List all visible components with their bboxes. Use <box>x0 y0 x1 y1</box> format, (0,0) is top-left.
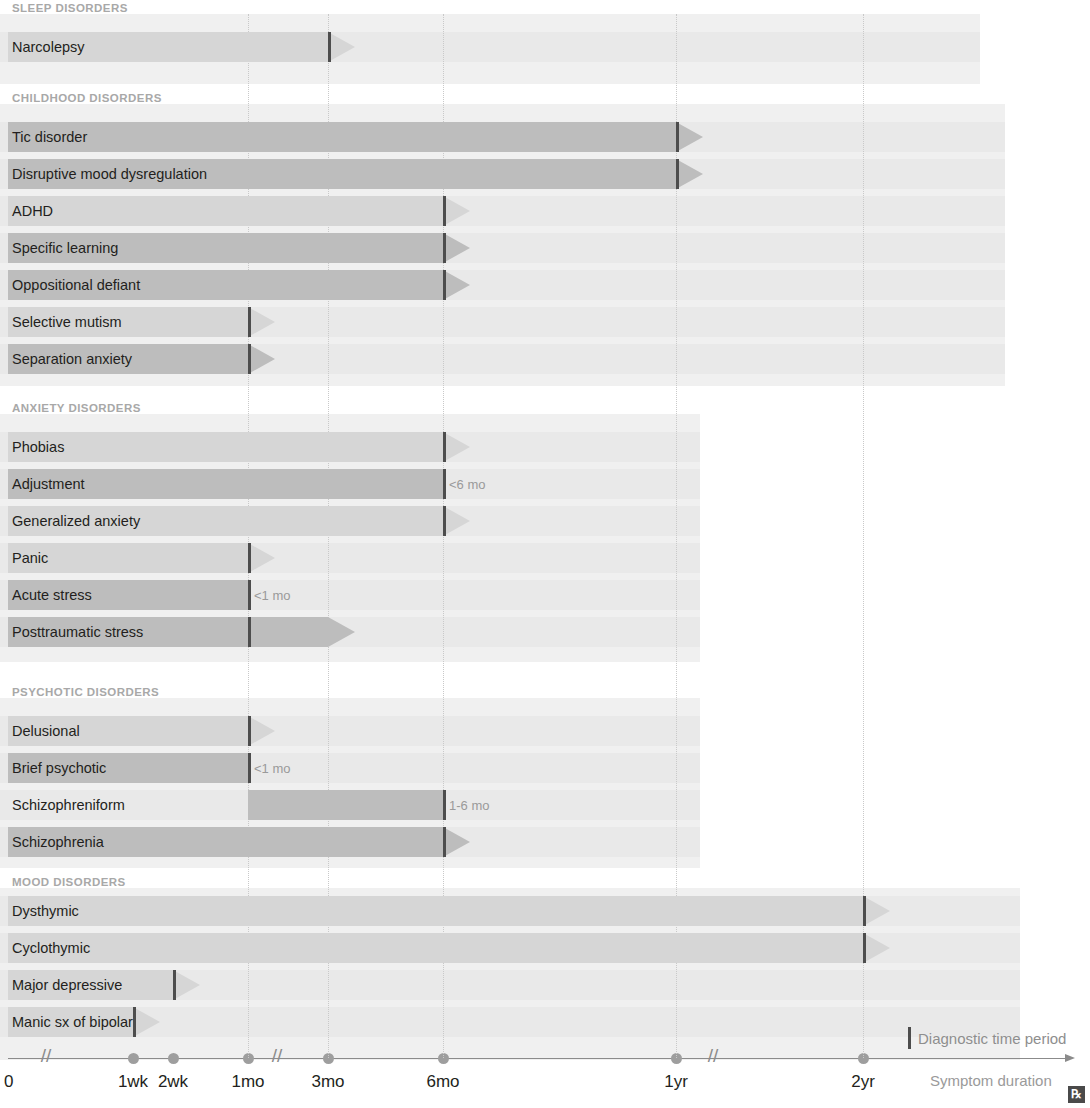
row-label: Dysthymic <box>12 896 79 926</box>
row-label: Brief psychotic <box>12 753 106 783</box>
section-heading-childhood-disorders: CHILDHOOD DISORDERS <box>0 92 162 104</box>
axis-tick-label: 2yr <box>851 1072 875 1092</box>
diagnostic-marker <box>248 716 251 746</box>
continuation-arrow <box>443 432 470 462</box>
continuation-arrow <box>173 970 200 1000</box>
axis-break-icon: // <box>708 1046 719 1065</box>
diagnostic-marker <box>443 270 446 300</box>
row-label: Tic disorder <box>12 122 87 152</box>
row-label: Schizophrenia <box>12 827 104 857</box>
row-label: Panic <box>12 543 48 573</box>
duration-bar <box>248 790 443 820</box>
bar-note: <6 mo <box>449 469 486 499</box>
continuation-arrow <box>443 506 470 536</box>
continuation-arrow <box>863 896 890 926</box>
row-label: Selective mutism <box>12 307 122 337</box>
continuation-arrow <box>248 716 275 746</box>
legend-label: Diagnostic time period <box>918 1030 1066 1047</box>
legend: Diagnostic time period <box>908 1027 1066 1049</box>
duration-bar <box>8 933 863 963</box>
diagnostic-marker <box>443 233 446 263</box>
continuation-arrow <box>676 122 703 152</box>
continuation-arrow <box>863 933 890 963</box>
axis-tick-label: 1mo <box>231 1072 264 1092</box>
diagnostic-marker <box>248 543 251 573</box>
row-label: Generalized anxiety <box>12 506 140 536</box>
diagnostic-marker <box>443 196 446 226</box>
row-label: ADHD <box>12 196 53 226</box>
row-label: Oppositional defiant <box>12 270 140 300</box>
axis-tick-label: 6mo <box>426 1072 459 1092</box>
continuation-arrow <box>248 543 275 573</box>
continuation-arrow <box>328 32 355 62</box>
diagnostic-marker <box>248 307 251 337</box>
row-label: Delusional <box>12 716 80 746</box>
time-axis: //////1wk2wk1mo3mo6mo1yr2yr0 <box>0 1058 1090 1108</box>
diagnostic-marker <box>248 580 251 610</box>
row-label: Acute stress <box>12 580 92 610</box>
section-heading-sleep-disorders: SLEEP DISORDERS <box>0 2 128 14</box>
rx-icon: ℞ <box>1068 1086 1085 1103</box>
continuation-arrow <box>443 827 470 857</box>
continuation-arrow <box>328 617 355 647</box>
diagnostic-marker <box>173 970 176 1000</box>
diagnostic-marker <box>248 344 251 374</box>
axis-break-icon: // <box>41 1046 52 1065</box>
section-heading-anxiety-disorders: ANXIETY DISORDERS <box>0 402 141 414</box>
axis-tick-label: 2wk <box>158 1072 188 1092</box>
continuation-arrow <box>443 270 470 300</box>
axis-tick-dot <box>128 1053 139 1064</box>
diagnostic-marker <box>863 896 866 926</box>
axis-arrowhead-icon <box>1065 1054 1075 1062</box>
row-label: Separation anxiety <box>12 344 132 374</box>
duration-bar <box>8 896 863 926</box>
section-heading-psychotic-disorders: PSYCHOTIC DISORDERS <box>0 686 159 698</box>
bar-note: <1 mo <box>254 580 291 610</box>
diagnostic-marker <box>676 122 679 152</box>
diagnostic-marker <box>248 617 251 647</box>
row-label: Phobias <box>12 432 64 462</box>
continuation-arrow <box>248 307 275 337</box>
duration-bar <box>8 432 443 462</box>
diagnostic-marker <box>443 790 446 820</box>
row-label: Manic sx of bipolar <box>12 1007 133 1037</box>
continuation-arrow <box>133 1007 160 1037</box>
axis-tick-label: 3mo <box>311 1072 344 1092</box>
diagnostic-marker <box>443 432 446 462</box>
axis-title: Symptom duration <box>930 1072 1052 1089</box>
axis-tick-label: 1wk <box>118 1072 148 1092</box>
diagnostic-marker <box>443 827 446 857</box>
axis-line <box>8 1058 1065 1059</box>
row-label: Narcolepsy <box>12 32 85 62</box>
axis-zero-label: 0 <box>4 1072 13 1092</box>
row-label: Cyclothymic <box>12 933 90 963</box>
diagnostic-marker <box>443 506 446 536</box>
section-heading-mood-disorders: MOOD DISORDERS <box>0 876 126 888</box>
continuation-arrow <box>676 159 703 189</box>
axis-tick-label: 1yr <box>664 1072 688 1092</box>
row-label: Specific learning <box>12 233 118 263</box>
row-label: Schizophreniform <box>12 790 125 820</box>
diagnostic-time-periods-chart: Diagnostic time periods SLEEP DISORDERSC… <box>0 0 1090 1108</box>
duration-bar <box>8 122 676 152</box>
continuation-arrow <box>443 196 470 226</box>
diagnostic-marker <box>248 753 251 783</box>
diagnostic-marker-swatch <box>908 1027 911 1049</box>
diagnostic-marker <box>676 159 679 189</box>
continuation-arrow <box>443 233 470 263</box>
diagnostic-marker <box>863 933 866 963</box>
diagnostic-marker <box>133 1007 136 1037</box>
diagnostic-marker <box>328 32 331 62</box>
diagnostic-marker <box>443 469 446 499</box>
row-label: Major depressive <box>12 970 122 1000</box>
duration-bar <box>8 196 443 226</box>
continuation-arrow <box>248 344 275 374</box>
row-label: Adjustment <box>12 469 85 499</box>
axis-tick-dot <box>168 1053 179 1064</box>
bar-note: <1 mo <box>254 753 291 783</box>
axis-break-icon: // <box>272 1046 283 1065</box>
row-label: Disruptive mood dysregulation <box>12 159 207 189</box>
bar-note: 1-6 mo <box>449 790 489 820</box>
row-label: Posttraumatic stress <box>12 617 143 647</box>
